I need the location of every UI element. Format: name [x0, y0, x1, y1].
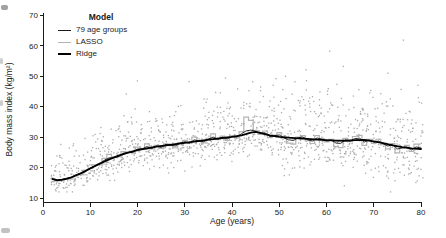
scatter-dot: [382, 126, 383, 127]
scatter-dot: [273, 85, 274, 86]
scatter-dot: [416, 153, 417, 154]
scatter-dot: [415, 122, 416, 123]
scatter-dot: [108, 167, 109, 168]
scatter-dot: [118, 128, 119, 129]
scatter-dot: [364, 147, 365, 148]
scatter-dot: [127, 162, 128, 163]
scatter-dot: [338, 119, 339, 120]
scatter-dot: [316, 146, 317, 147]
scatter-dot: [375, 153, 376, 154]
scatter-dot: [271, 154, 272, 155]
scatter-dot: [172, 122, 173, 123]
scatter-dot: [405, 113, 406, 114]
scatter-dot: [220, 121, 221, 122]
scatter-dot: [124, 161, 125, 162]
scatter-dot: [83, 155, 84, 156]
scatter-dot: [403, 156, 404, 157]
scatter-dot: [232, 143, 233, 144]
scatter-dot: [412, 128, 413, 129]
scatter-dot: [402, 164, 403, 165]
scatter-dot: [111, 166, 112, 167]
scatter-dot: [156, 156, 157, 157]
scatter-dot: [243, 147, 244, 148]
scatter-dot: [136, 121, 137, 122]
scatter-dot: [348, 155, 349, 156]
scatter-dot: [284, 141, 285, 142]
scatter-dot: [55, 189, 56, 190]
scatter-dot: [318, 154, 319, 155]
scatter-dot: [206, 102, 207, 103]
scatter-dot: [223, 147, 224, 148]
scatter-dot: [231, 161, 232, 162]
scatter-dot: [91, 156, 92, 157]
scatter-dot: [101, 167, 102, 168]
scatter-dot: [144, 160, 145, 161]
scatter-dot: [130, 136, 131, 137]
scan-artifact: [1, 228, 10, 233]
scatter-dot: [370, 90, 371, 91]
scatter-dot: [65, 187, 66, 188]
scatter-dot: [170, 138, 171, 139]
scatter-dot: [299, 130, 300, 131]
scatter-dot: [113, 152, 114, 153]
scatter-dot: [102, 141, 103, 142]
scatter-dot: [345, 151, 346, 152]
scatter-dot: [372, 146, 373, 147]
scatter-dot: [309, 164, 310, 165]
scatter-dot: [259, 122, 260, 123]
scatter-dot: [119, 149, 120, 150]
scatter-dot: [396, 121, 397, 122]
scatter-dot: [294, 81, 295, 82]
scatter-dot: [327, 94, 328, 95]
scatter-dot: [165, 150, 166, 151]
scatter-dot: [370, 156, 371, 157]
scatter-dot: [350, 153, 351, 154]
scatter-dot: [350, 123, 351, 124]
scatter-dot: [368, 146, 369, 147]
scatter-dot: [357, 145, 358, 146]
scatter-dot: [102, 165, 103, 166]
scatter-dot: [308, 101, 309, 102]
scatter-dot: [379, 127, 380, 128]
scatter-dot: [299, 105, 300, 106]
scatter-dot: [231, 140, 232, 141]
scatter-dot: [224, 152, 225, 153]
scatter-dot: [285, 98, 286, 99]
scatter-dot: [266, 125, 267, 126]
scatter-dot: [301, 147, 302, 148]
scatter-dot: [256, 145, 257, 146]
scatter-dot: [198, 123, 199, 124]
scatter-dot: [304, 153, 305, 154]
scatter-dot: [261, 143, 262, 144]
scatter-dot: [230, 143, 231, 144]
scatter-dot: [322, 144, 323, 145]
scatter-dot: [350, 147, 351, 148]
scatter-dot: [284, 168, 285, 169]
scatter-dot: [183, 124, 184, 125]
scatter-dot: [218, 149, 219, 150]
scatter-dot: [135, 108, 136, 109]
scatter-dot: [348, 131, 349, 132]
scatter-dot: [51, 175, 52, 176]
scatter-dot: [413, 166, 414, 167]
scatter-dot: [234, 130, 235, 131]
scatter-dot: [70, 179, 71, 180]
scatter-dot: [327, 157, 328, 158]
scatter-dot: [324, 115, 325, 116]
scatter-dot: [227, 115, 228, 116]
scatter-dot: [55, 190, 56, 191]
scatter-dot: [406, 150, 407, 151]
scatter-dot: [174, 139, 175, 140]
scatter-dot: [94, 157, 95, 158]
scatter-dot: [224, 120, 225, 121]
scatter-dot: [195, 153, 196, 154]
scatter-dot: [422, 124, 423, 125]
scatter-dot: [313, 130, 314, 131]
scatter-dot: [415, 182, 416, 183]
scatter-dot: [407, 139, 408, 140]
scatter-dot: [409, 111, 410, 112]
scatter-dot: [149, 121, 150, 122]
scatter-dot: [171, 129, 172, 130]
scatter-dot: [248, 137, 249, 138]
scatter-dot: [353, 167, 354, 168]
